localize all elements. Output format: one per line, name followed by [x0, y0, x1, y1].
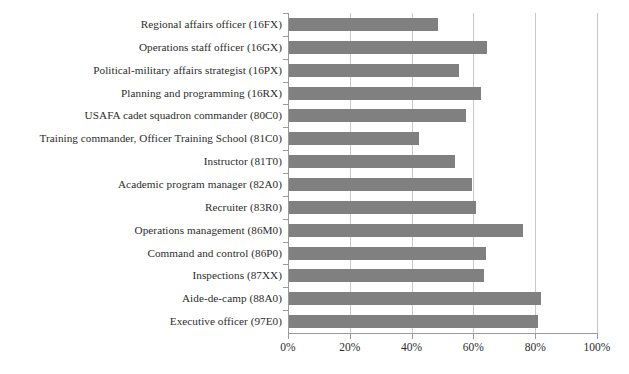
category-label: Aide-de-camp (88A0): [0, 292, 282, 305]
bar: [288, 155, 455, 168]
gridline: [412, 13, 413, 333]
category-tick: [283, 242, 288, 243]
value-tick-label: 100%: [567, 341, 627, 353]
plot-area: [288, 13, 597, 333]
bar: [288, 315, 538, 328]
category-label: Operations management (86M0): [0, 224, 282, 237]
bar: [288, 18, 438, 31]
category-tick: [283, 264, 288, 265]
value-tick: [597, 334, 598, 339]
gridline: [473, 13, 474, 333]
category-tick: [283, 127, 288, 128]
gridline: [350, 13, 351, 333]
bar: [288, 64, 459, 77]
category-tick: [283, 196, 288, 197]
category-axis: Regional affairs officer (16FX)Operation…: [0, 13, 285, 333]
category-label: Inspections (87XX): [0, 269, 282, 282]
value-tick-label: 40%: [382, 341, 442, 353]
category-label: Planning and programming (16RX): [0, 87, 282, 100]
bar: [288, 41, 487, 54]
category-tick: [283, 310, 288, 311]
category-label: Instructor (81T0): [0, 155, 282, 168]
category-tick: [283, 36, 288, 37]
category-tick: [283, 104, 288, 105]
value-tick-label: 0%: [258, 341, 318, 353]
category-tick: [283, 287, 288, 288]
value-tick: [288, 334, 289, 339]
gridline: [535, 13, 536, 333]
bar: [288, 109, 466, 122]
category-label: Regional affairs officer (16FX): [0, 18, 282, 31]
bar: [288, 132, 419, 145]
category-label: USAFA cadet squadron commander (80C0): [0, 109, 282, 122]
value-tick: [473, 334, 474, 339]
category-tick: [283, 173, 288, 174]
bar: [288, 269, 484, 282]
value-tick-label: 60%: [443, 341, 503, 353]
value-tick: [535, 334, 536, 339]
value-tick-label: 20%: [320, 341, 380, 353]
category-tick: [283, 150, 288, 151]
category-tick: [283, 13, 288, 14]
bar: [288, 292, 541, 305]
bar: [288, 87, 481, 100]
category-label: Training commander, Officer Training Sch…: [0, 132, 282, 145]
value-tick-label: 80%: [505, 341, 565, 353]
category-label: Political-military affairs strategist (1…: [0, 64, 282, 77]
value-axis-baseline: [288, 333, 598, 334]
category-tick: [283, 82, 288, 83]
bar-chart: Regional affairs officer (16FX)Operation…: [0, 0, 629, 374]
value-axis-line: [288, 13, 289, 334]
category-label: Executive officer (97E0): [0, 315, 282, 328]
value-tick: [412, 334, 413, 339]
category-label: Operations staff officer (16GX): [0, 41, 282, 54]
category-tick: [283, 59, 288, 60]
value-tick: [350, 334, 351, 339]
category-label: Academic program manager (82A0): [0, 178, 282, 191]
bar: [288, 178, 472, 191]
bar: [288, 224, 523, 237]
bar: [288, 201, 476, 214]
category-label: Command and control (86P0): [0, 247, 282, 260]
bar: [288, 247, 486, 260]
category-label: Recruiter (83R0): [0, 201, 282, 214]
gridline: [597, 13, 598, 333]
category-tick: [283, 219, 288, 220]
